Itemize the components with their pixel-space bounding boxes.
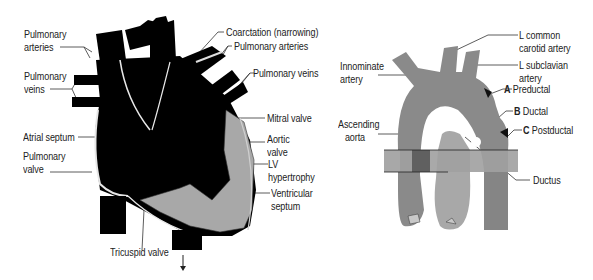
diagram-figure: Pulmonary arteries Pulmonary veins Atria… <box>0 0 593 280</box>
label-l-subclavian: L subclavian artery <box>519 59 568 85</box>
label-lv-hypertrophy: LV hypertrophy <box>268 158 315 184</box>
label-pulmonary-arteries-left: Pulmonary arteries <box>24 28 66 54</box>
label-mitral-valve: Mitral valve <box>267 112 312 125</box>
label-pulmonary-veins-left: Pulmonary veins <box>24 70 66 96</box>
label-tricuspid-valve: Tricuspid valve <box>110 246 169 259</box>
label-ductal: B Ductal <box>514 105 548 118</box>
label-innominate-artery: Innominate artery <box>340 60 384 86</box>
label-ventricular-septum: Ventricular septum <box>271 187 313 213</box>
label-pulmonary-valve: Pulmonary valve <box>23 150 65 176</box>
label-ductus: Ductus <box>533 174 561 187</box>
aortic-arch-illustration <box>378 35 530 230</box>
label-aortic-valve: Aortic valve <box>267 133 290 159</box>
heart-illustration <box>50 16 270 271</box>
label-postductal: C Postductal <box>523 124 573 137</box>
label-preductal: A Preductal <box>504 83 550 96</box>
label-ascending-aorta: Ascending aorta <box>338 118 379 144</box>
label-l-common-carotid: L common carotid artery <box>519 29 570 55</box>
label-atrial-septum: Atrial septum <box>23 131 75 144</box>
label-coarctation: Coarctation (narrowing) <box>226 26 318 39</box>
label-pulmonary-arteries-right: Pulmonary arteries <box>234 40 308 53</box>
label-pulmonary-veins-right: Pulmonary veins <box>253 67 318 80</box>
